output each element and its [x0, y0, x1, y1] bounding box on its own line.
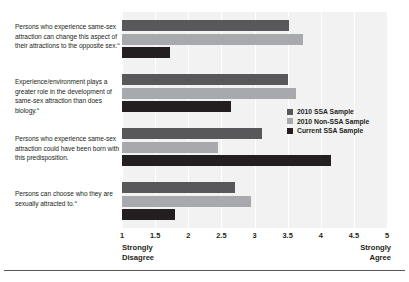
x-tick-0: 1	[120, 231, 124, 240]
bar-3-2	[122, 209, 175, 220]
category-label-3-footnote: a	[74, 198, 76, 203]
legend-item-1[interactable]: 2010 Non-SSA Sample	[287, 118, 369, 125]
x-tick-3: 2.5	[216, 231, 226, 240]
bar-2-0	[122, 128, 262, 139]
category-label-1-line2: greater role in the development of	[15, 88, 112, 95]
legend-swatch-icon-0	[287, 109, 293, 115]
category-labels: Persons who experience same-sex attracti…	[0, 0, 122, 228]
category-label-0: Persons who experience same-sex attracti…	[15, 22, 122, 51]
bar-chart: Persons who experience same-sex attracti…	[0, 0, 409, 282]
x-tick-6: 4	[319, 231, 323, 240]
chart-legend: 2010 SSA Sample2010 Non-SSA SampleCurren…	[287, 108, 369, 137]
bar-0-0	[122, 20, 289, 31]
bar-0-1	[122, 34, 303, 45]
legend-swatch-icon-2	[287, 128, 293, 134]
gridline-8	[387, 12, 388, 228]
x-tick-5: 3.5	[282, 231, 292, 240]
axis-high-caption-line1: Strongly	[360, 243, 391, 252]
category-label-3-line1: Persons can choose who they are	[15, 190, 113, 197]
axis-low-caption: Strongly Disagree	[122, 243, 154, 262]
x-tick-8: 5	[385, 231, 389, 240]
bar-2-1	[122, 142, 218, 153]
legend-label-1: 2010 Non-SSA Sample	[297, 118, 369, 125]
x-axis-ticks: 11.522.533.544.55	[122, 231, 387, 243]
bar-0-2	[122, 47, 170, 58]
category-label-0-line2: attraction can change this aspect of	[15, 33, 117, 40]
x-tick-2: 2	[186, 231, 190, 240]
category-label-0-line1: Persons who experience same-sex	[15, 23, 116, 30]
category-label-1: Experience/environment plays a greater r…	[15, 77, 122, 115]
category-label-0-footnote: a	[117, 41, 119, 46]
bar-group-0	[122, 12, 387, 66]
legend-label-2: Current SSA Sample	[297, 127, 363, 134]
category-label-2-line3: this predisposition.	[15, 154, 69, 161]
category-label-2: Persons who experience same-sex attracti…	[15, 134, 122, 163]
x-tick-4: 3	[252, 231, 256, 240]
axis-low-caption-line2: Disagree	[122, 253, 154, 262]
category-label-3-line2: sexually attracted to.	[15, 200, 74, 207]
category-label-0-line3: their attractions to the opposite sex.	[15, 42, 117, 49]
legend-swatch-icon-1	[287, 118, 293, 124]
category-label-1-line3: same-sex attraction than does biology.	[15, 97, 102, 114]
bar-1-0	[122, 74, 288, 85]
x-tick-7: 4.5	[349, 231, 359, 240]
bar-1-2	[122, 101, 231, 112]
bar-1-1	[122, 88, 296, 99]
category-label-2-line1: Persons who experience same-sex	[15, 135, 116, 142]
legend-item-0[interactable]: 2010 SSA Sample	[287, 108, 369, 115]
category-label-1-line1: Experience/environment plays a	[15, 78, 107, 85]
bottom-divider	[4, 270, 405, 271]
axis-high-caption: Strongly Agree	[360, 243, 391, 262]
category-label-1-footnote: a	[37, 106, 39, 111]
bar-group-3	[122, 174, 387, 228]
x-tick-1: 1.5	[150, 231, 160, 240]
axis-high-caption-line2: Agree	[369, 253, 391, 262]
legend-label-0: 2010 SSA Sample	[297, 108, 354, 115]
legend-item-2[interactable]: Current SSA Sample	[287, 127, 369, 134]
axis-low-caption-line1: Strongly	[122, 243, 153, 252]
bar-2-2	[122, 155, 331, 166]
bar-3-0	[122, 182, 235, 193]
bar-3-1	[122, 196, 251, 207]
category-label-3: Persons can choose who they are sexually…	[15, 189, 122, 208]
category-label-2-line2: attraction could have been born with	[15, 145, 119, 152]
